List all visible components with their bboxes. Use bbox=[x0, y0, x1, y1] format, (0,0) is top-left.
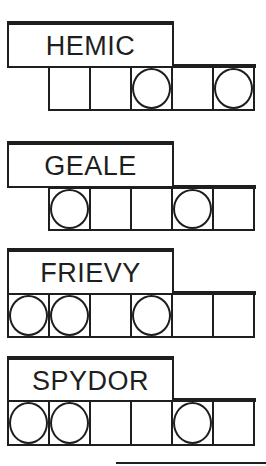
circle-marker-icon bbox=[132, 68, 171, 109]
answer-cell-3[interactable] bbox=[130, 187, 173, 231]
circle-marker-icon bbox=[9, 295, 48, 336]
answer-cell-4-circled[interactable] bbox=[171, 187, 214, 231]
scrambled-word-box: GEALE bbox=[7, 141, 174, 188]
answer-cell-1-circled[interactable] bbox=[7, 400, 50, 446]
circle-marker-icon bbox=[9, 402, 48, 444]
answer-cell-5-circled[interactable] bbox=[212, 66, 255, 111]
answer-cell-6[interactable] bbox=[212, 400, 255, 446]
answer-cell-3[interactable] bbox=[89, 400, 132, 446]
scrambled-word: HEMIC bbox=[46, 31, 136, 60]
answer-cell-4[interactable] bbox=[171, 66, 214, 111]
answer-cells bbox=[7, 400, 255, 446]
scrambled-word: GEALE bbox=[44, 151, 137, 180]
scrambled-word-box: FRIEVY bbox=[7, 248, 174, 295]
answer-cells bbox=[48, 187, 255, 231]
circle-marker-icon bbox=[173, 402, 212, 444]
circle-marker-icon bbox=[132, 295, 171, 336]
answer-cell-2-circled[interactable] bbox=[48, 400, 91, 446]
answer-cell-4-circled[interactable] bbox=[130, 293, 173, 338]
circle-marker-icon bbox=[50, 189, 89, 229]
answer-cell-3-circled[interactable] bbox=[130, 66, 173, 111]
scrambled-word: FRIEVY bbox=[40, 258, 141, 287]
circle-marker-icon bbox=[173, 189, 212, 229]
answer-cells bbox=[7, 293, 255, 338]
answer-cell-5[interactable] bbox=[212, 187, 255, 231]
answer-cell-2[interactable] bbox=[89, 187, 132, 231]
scrambled-word-box: HEMIC bbox=[7, 21, 174, 68]
answer-cell-2[interactable] bbox=[89, 66, 132, 111]
circle-marker-icon bbox=[50, 402, 89, 444]
circle-marker-icon bbox=[50, 295, 89, 336]
answer-cell-1[interactable] bbox=[48, 66, 91, 111]
answer-cell-5-circled[interactable] bbox=[171, 400, 214, 446]
answer-cell-6[interactable] bbox=[212, 293, 255, 338]
circle-marker-icon bbox=[214, 68, 253, 109]
answer-cell-4[interactable] bbox=[130, 400, 173, 446]
answer-cells bbox=[48, 66, 255, 111]
answer-cell-3[interactable] bbox=[89, 293, 132, 338]
scrambled-word: SPYDOR bbox=[32, 366, 149, 395]
answer-cell-2-circled[interactable] bbox=[48, 293, 91, 338]
scrambled-word-box: SPYDOR bbox=[7, 356, 174, 402]
answer-cell-5[interactable] bbox=[171, 293, 214, 338]
answer-cell-1-circled[interactable] bbox=[7, 293, 50, 338]
final-answer-line bbox=[116, 462, 266, 464]
answer-cell-1-circled[interactable] bbox=[48, 187, 91, 231]
